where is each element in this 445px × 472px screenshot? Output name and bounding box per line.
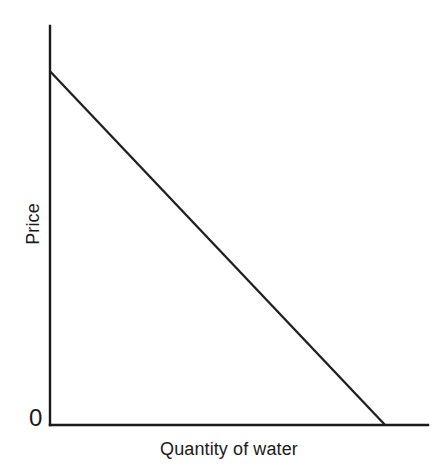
y-axis-label-text: Price (24, 203, 42, 245)
demand-curve-line (50, 71, 385, 425)
demand-curve-figure: Price 0 Quantity of water (0, 0, 445, 472)
x-axis-label: Quantity of water (160, 440, 298, 458)
chart-canvas (0, 0, 445, 472)
origin-tick-label: 0 (29, 406, 42, 430)
